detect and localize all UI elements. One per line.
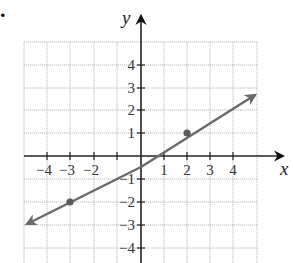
svg-text:4: 4 <box>229 162 237 178</box>
svg-text:−3: −3 <box>119 217 135 233</box>
svg-text:−2: −2 <box>83 162 99 178</box>
svg-text:1: 1 <box>128 125 136 141</box>
svg-text:2: 2 <box>183 162 191 178</box>
svg-text:−3: −3 <box>59 162 75 178</box>
svg-text:−4: −4 <box>36 162 52 178</box>
coordinate-graph: . <box>0 0 293 263</box>
svg-text:3: 3 <box>206 162 214 178</box>
svg-text:3: 3 <box>128 80 136 96</box>
y-axis-label: y <box>120 7 131 28</box>
svg-text:2: 2 <box>128 102 136 118</box>
x-axis-label: x <box>279 158 289 179</box>
svg-text:−4: −4 <box>119 240 135 256</box>
svg-text:−2: −2 <box>119 194 135 210</box>
svg-text:4: 4 <box>128 57 136 73</box>
point-neg3-neg2 <box>66 198 73 205</box>
point-2-1 <box>183 129 190 136</box>
svg-text:1: 1 <box>160 162 168 178</box>
problem-marker: . <box>0 0 6 22</box>
